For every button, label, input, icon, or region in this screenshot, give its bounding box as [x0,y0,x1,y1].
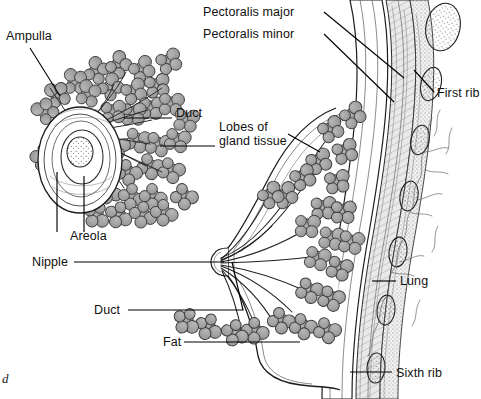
label-lung: Lung [400,274,428,288]
label-lobes-line1: Lobes of [219,120,268,134]
label-duct-main: Duct [94,303,120,317]
figure-part-marker: d [2,371,9,387]
label-pectoralis-minor: Pectoralis minor [203,27,294,41]
label-ampulla: Ampulla [6,29,52,43]
figure-artwork [0,0,481,399]
breast-anatomy-figure: Ampulla Duct Lobes ofgland tissue Areola… [0,0,481,399]
label-nipple: Nipple [32,255,68,269]
label-lobes-line2: gland tissue [219,134,287,148]
label-lobes-of-gland-tissue: Lobes ofgland tissue [219,120,287,148]
label-duct-inset: Duct [176,106,202,120]
label-sixth-rib: Sixth rib [396,366,442,380]
inset-areola-nipple [38,107,122,213]
label-pectoralis-major: Pectoralis major [203,5,294,19]
label-areola: Areola [70,229,107,243]
label-fat: Fat [163,335,181,349]
chest-wall [322,0,465,399]
label-first-rib: First rib [437,86,480,100]
